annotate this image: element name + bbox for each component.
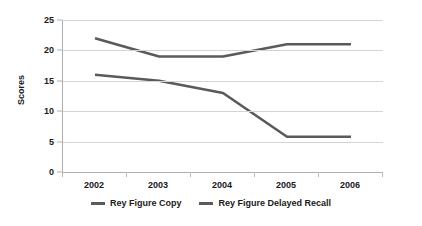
- legend-line-icon: [91, 202, 105, 205]
- x-axis-tick-label: 2004: [212, 180, 232, 190]
- x-axis-tick-label: 2003: [148, 180, 168, 190]
- y-axis-tick-label: 25: [44, 15, 54, 25]
- y-axis-title-label: Scores: [16, 75, 26, 105]
- line-chart: Scores 0510152025 Rey Figure CopyRey Fig…: [0, 0, 422, 226]
- x-axis-tick-mark: [318, 172, 319, 177]
- y-axis-tick-mark: [57, 141, 62, 142]
- y-axis-tick-label: 10: [44, 106, 54, 116]
- y-axis-tick-label: 5: [49, 137, 54, 147]
- gridline: [63, 81, 383, 82]
- gridline: [63, 111, 383, 112]
- y-axis-tick-labels: 0510152025: [30, 0, 58, 180]
- x-axis-tick-mark: [254, 172, 255, 177]
- series-line-1: [95, 75, 351, 137]
- x-axis-tick-mark: [382, 172, 383, 177]
- x-axis-tick-label: 2005: [276, 180, 296, 190]
- plot-area: [62, 20, 383, 172]
- y-axis-tick-label: 15: [44, 76, 54, 86]
- y-axis-tick-mark: [57, 111, 62, 112]
- legend-item-0[interactable]: Rey Figure Copy: [91, 198, 182, 208]
- series-lines: [63, 20, 383, 172]
- x-axis-tick-label: 2002: [84, 180, 104, 190]
- series-line-0: [95, 38, 351, 56]
- y-axis-title: Scores: [10, 0, 32, 180]
- gridline: [63, 20, 383, 21]
- gridline: [63, 142, 383, 143]
- legend-line-icon: [199, 202, 213, 205]
- x-axis-tick-label: 2006: [340, 180, 360, 190]
- x-axis-line: [62, 172, 382, 173]
- y-axis-tick-mark: [57, 50, 62, 51]
- x-axis-tick-mark: [126, 172, 127, 177]
- legend-item-1[interactable]: Rey Figure Delayed Recall: [199, 198, 331, 208]
- y-axis-tick-label: 20: [44, 45, 54, 55]
- gridline: [63, 50, 383, 51]
- y-axis-tick-mark: [57, 20, 62, 21]
- y-axis-tick-label: 0: [49, 167, 54, 177]
- legend-label: Rey Figure Copy: [110, 198, 182, 208]
- x-axis-tick-mark: [190, 172, 191, 177]
- y-axis-tick-mark: [57, 80, 62, 81]
- x-axis-tick-mark: [62, 172, 63, 177]
- legend-label: Rey Figure Delayed Recall: [218, 198, 331, 208]
- chart-legend: Rey Figure CopyRey Figure Delayed Recall: [0, 198, 422, 208]
